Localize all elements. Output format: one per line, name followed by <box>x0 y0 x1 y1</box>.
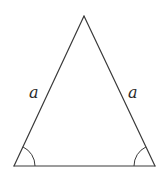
left-side <box>14 16 84 166</box>
right-side <box>84 16 155 166</box>
angle-arc-bottom-left <box>23 147 35 166</box>
isosceles-triangle-diagram: a a <box>0 0 160 179</box>
right-side-label: a <box>128 83 138 102</box>
left-side-label: a <box>29 83 39 102</box>
angle-arc-bottom-right <box>134 147 146 166</box>
